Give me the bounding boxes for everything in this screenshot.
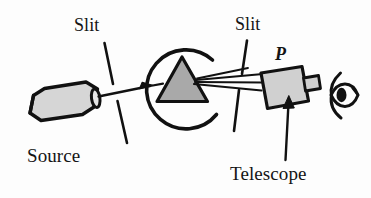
source-body [30, 82, 98, 121]
label-telescope: Telescope [230, 164, 307, 183]
source-lamp [30, 82, 101, 121]
label-slit-left: Slit [74, 16, 99, 34]
telescope-body [261, 67, 309, 109]
refracted-ray-3 [194, 84, 262, 91]
telescope-eyepiece [304, 76, 321, 92]
incident-ray [99, 82, 164, 96]
slit-left-lower-blade [118, 101, 128, 143]
slit-right-lower-blade [234, 90, 239, 131]
incident-ray-entry [150, 84, 163, 86]
spectrometer-figure: Slit Slit P Source Telescope [0, 0, 371, 198]
observer-eye [331, 73, 358, 118]
telescope-callout-arrow [283, 96, 294, 161]
refracted-ray-2 [195, 82, 263, 83]
diagram-canvas [0, 0, 371, 198]
label-prism-marker: P [275, 45, 286, 63]
slit-left-upper-blade [105, 43, 114, 84]
label-slit-right: Slit [235, 15, 260, 33]
refracted-ray-fan [194, 68, 263, 91]
telescope-arrow-shaft [286, 103, 289, 160]
label-source: Source [27, 146, 80, 165]
eye-pupil [337, 88, 347, 102]
slit-right-mark [234, 41, 247, 132]
